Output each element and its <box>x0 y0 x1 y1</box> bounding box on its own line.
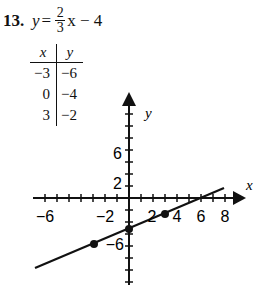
x-tick-label: −2 <box>96 208 114 225</box>
point-neg3-neg6 <box>90 240 98 248</box>
x-tick-label: 6 <box>197 208 206 225</box>
x-axis-arrow-icon <box>233 191 246 205</box>
y-axis-label: y <box>143 105 152 121</box>
x-tick-label: 4 <box>173 208 182 225</box>
x-tick-label: 8 <box>221 208 230 225</box>
y-tick-label: 2 <box>113 175 122 192</box>
coordinate-graph: −6 −2 2 4 6 8 6 2 −6 x y <box>0 0 272 290</box>
point-0-neg4 <box>125 225 133 233</box>
y-tick-label: −6 <box>106 236 124 253</box>
point-3-neg2 <box>161 210 169 218</box>
x-axis-label: x <box>245 177 253 193</box>
y-axis-arrow-icon <box>122 92 136 106</box>
y-tick-label: 6 <box>113 145 122 162</box>
x-tick-label: 2 <box>148 208 157 225</box>
x-tick-label: −6 <box>36 208 54 225</box>
